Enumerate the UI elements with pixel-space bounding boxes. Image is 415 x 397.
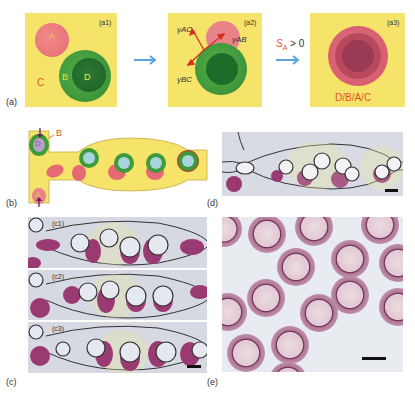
label-c3: (c3) bbox=[52, 325, 64, 332]
label-inlet-B: B bbox=[56, 128, 62, 138]
label-e: (e) bbox=[207, 377, 218, 387]
panel-c3-micrograph: (c3) bbox=[28, 322, 207, 373]
scale-bar bbox=[385, 189, 398, 192]
panel-e-micrograph bbox=[222, 217, 403, 372]
panel-d-micrograph bbox=[222, 132, 403, 196]
panel-c1-micrograph: (c1) bbox=[28, 217, 207, 268]
label-inlet-A: A bbox=[35, 190, 40, 199]
label-b: (b) bbox=[6, 198, 17, 208]
label-c2: (c2) bbox=[52, 273, 64, 280]
label-c1: (c1) bbox=[52, 220, 64, 227]
scale-bar bbox=[362, 357, 386, 360]
scale-bar bbox=[187, 365, 201, 368]
label-inlet-D: D bbox=[35, 139, 41, 148]
panel-c2-micrograph: (c2) bbox=[28, 270, 207, 320]
label-c: (c) bbox=[6, 377, 17, 387]
label-d: (d) bbox=[207, 198, 218, 208]
